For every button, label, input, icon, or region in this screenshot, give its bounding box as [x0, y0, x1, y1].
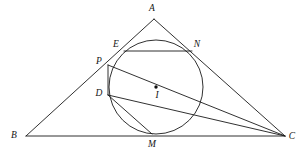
label-E: E	[112, 39, 119, 49]
incenter-dot	[154, 85, 157, 88]
segment-DC	[108, 95, 285, 136]
label-I: I	[154, 90, 159, 100]
label-A: A	[148, 3, 155, 13]
label-N: N	[193, 39, 201, 49]
label-M: M	[147, 139, 157, 149]
label-D: D	[95, 88, 103, 98]
label-C: C	[289, 131, 296, 141]
segment-PC	[108, 65, 285, 136]
label-B: B	[11, 130, 17, 140]
segment-DM	[108, 95, 152, 134]
side-AC	[154, 19, 285, 136]
label-P: P	[95, 56, 102, 66]
geometry-diagram: A B C D E I M N P	[0, 0, 306, 153]
geometry-canvas: A B C D E I M N P	[0, 0, 306, 153]
